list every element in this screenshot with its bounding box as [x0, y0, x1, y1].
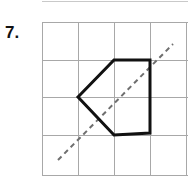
grid-lines	[42, 22, 188, 176]
figure-page: 7.	[0, 0, 188, 186]
geometry-figure	[0, 0, 188, 186]
figure-svg	[0, 0, 188, 186]
